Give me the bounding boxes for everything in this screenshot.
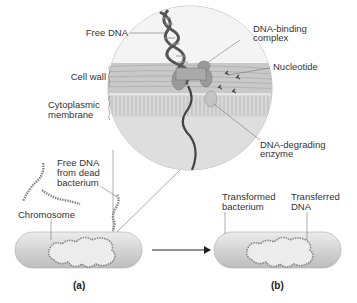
transformation-arrow [152,246,211,254]
panel-label-a: (a) [73,280,85,291]
label-nucleotide: Nucleotide [273,62,318,72]
label-chromosome: Chromosome [18,210,75,220]
label-cell-wall: Cell wall [48,72,106,82]
entering-dna [113,195,119,231]
bacterium-b [214,232,341,268]
label-cytoplasmic-membrane-2: membrane [48,110,93,120]
label-free-dna-dead-3: bacterium [57,178,99,188]
bacterium-a [15,195,142,268]
label-transformed-2: bacterium [222,202,264,212]
panel-label-b: (b) [271,280,284,291]
diagram-canvas [0,0,357,303]
label-dna-binding-2: complex [253,33,288,43]
label-dna-degrading-2: enzyme [260,149,293,159]
label-free-dna: Free DNA [70,28,128,38]
label-transferred-2: DNA [291,202,311,212]
